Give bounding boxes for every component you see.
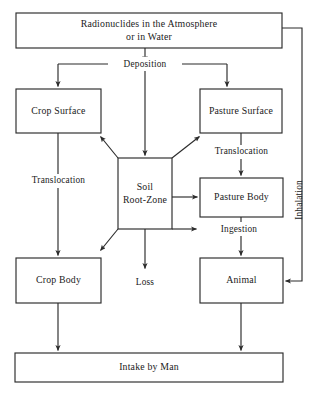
node-atmosphere-label-line2: or in Water: [126, 31, 172, 42]
node-soil-root-zone-label-line1: Soil: [137, 181, 154, 192]
node-soil-root-zone-label-line2: Root-Zone: [123, 194, 168, 205]
node-animal-label: Animal: [226, 274, 257, 285]
edge-soil-to-crop-body-diagonal: [101, 229, 119, 251]
node-intake-by-man-label: Intake by Man: [119, 361, 179, 372]
flowchart-canvas: Radionuclides in the Atmosphere or in Wa…: [0, 0, 316, 396]
edge-label-loss: Loss: [136, 277, 155, 287]
edge-label-deposition: Deposition: [124, 59, 167, 69]
node-crop-surface-label: Crop Surface: [31, 105, 86, 116]
edge-label-translocation-crop: Translocation: [32, 175, 86, 185]
edge-label-translocation-pasture: Translocation: [215, 146, 269, 156]
edge-label-ingestion: Ingestion: [221, 224, 258, 234]
node-pasture-body-label: Pasture Body: [214, 191, 269, 202]
edge-label-inhalation: Inhalation: [294, 180, 304, 220]
edge-pasture-surface-soil-diagonal: [172, 137, 200, 159]
edge-crop-surface-soil-diagonal: [101, 137, 119, 159]
node-pasture-surface-label: Pasture Surface: [209, 105, 274, 116]
flowchart-diagram: Radionuclides in the Atmosphere or in Wa…: [0, 0, 316, 396]
node-crop-body-label: Crop Body: [36, 274, 81, 285]
node-atmosphere-label-line1: Radionuclides in the Atmosphere: [81, 18, 218, 29]
